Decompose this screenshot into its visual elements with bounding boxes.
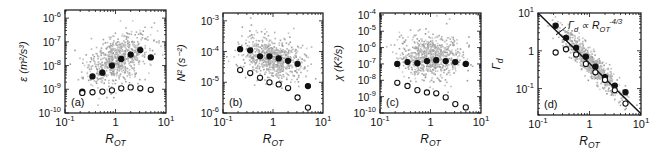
open-marker [463,105,468,110]
open-marker [623,101,628,106]
x-axis-label: ROT [420,132,441,148]
filled-marker [267,54,272,59]
series-open [395,80,469,110]
filled-marker [295,61,300,66]
open-marker [563,47,568,52]
open-marker [119,86,124,91]
filled-marker [305,84,310,89]
y-axis-label: Γd [490,58,505,69]
x-tick-label: 10-1 [528,116,548,130]
open-marker [148,87,153,92]
x-tick-label: 101 [158,114,175,128]
filled-marker [257,54,262,59]
y-tick-label: 10-3 [201,13,219,27]
y-axis-label: ε (m²/s³) [17,41,29,82]
panel-c: 10-1110110-1010-910-810-710-610-510-4ROT… [332,7,490,148]
open-marker [267,80,272,85]
x-tick-label: 1 [427,116,433,128]
x-tick-label: 10-1 [55,114,75,128]
panel-label: (d) [544,98,557,110]
filled-marker [238,47,243,52]
filled-marker [100,70,105,75]
filled-marker [395,61,400,66]
x-tick-label: 1 [112,116,118,128]
x-tick-label: 10-1 [213,114,233,128]
open-marker [443,95,448,100]
y-tick-label: 10-6 [358,40,376,54]
panel-label: (c) [386,96,399,108]
filled-marker [463,61,468,66]
filled-marker [119,56,124,61]
panel-b: 10-1110110-610-510-410-3ROTN² (s⁻²)(b) [175,13,332,148]
open-marker [257,75,262,80]
open-marker [453,102,458,107]
open-marker [583,61,588,66]
y-tick-label: 10-1 [516,81,534,95]
filled-marker [434,58,439,63]
figure: 10-1110110-1010-910-810-710-6ROTε (m²/s³… [0,0,663,153]
open-marker [553,50,558,55]
open-marker [424,90,429,95]
open-marker [276,82,281,87]
open-marker [305,105,310,110]
filled-marker [623,90,628,95]
open-marker [128,85,133,90]
fit-annotation: Γd ∝ ROT-4/3 [568,17,623,34]
filled-marker [553,23,558,28]
panel-d: 10-1110110-11101ROTΓd(d)Γd ∝ ROT-4/3 [490,4,657,150]
filled-marker [593,64,598,69]
y-tick-label: 10-5 [358,23,376,37]
x-tick-label: 101 [473,114,490,128]
filled-marker [109,63,114,68]
filled-marker [443,58,448,63]
x-tick-label: 1 [586,118,592,130]
y-tick-label: 10-4 [201,44,219,58]
x-tick-label: 101 [315,114,332,128]
open-marker [248,70,253,75]
open-marker [238,67,243,72]
panel-a: 10-1110110-1010-910-810-710-6ROTε (m²/s³… [17,10,175,148]
y-tick-label: 10-8 [43,58,61,72]
y-tick-label: 101 [518,5,534,19]
open-marker [395,80,400,85]
x-axis-label: ROT [105,132,126,148]
open-marker [574,52,579,57]
open-marker [109,88,114,93]
x-tick-label: 1 [270,116,276,128]
filled-marker [405,59,410,64]
filled-marker [148,55,153,60]
y-axis-label: χ (K²/s) [332,45,344,82]
y-tick-label: 10-5 [201,74,219,88]
y-tick-label: 10-8 [358,72,376,86]
open-marker [90,90,95,95]
series-open [238,67,311,110]
y-tick-label: 10-9 [43,81,61,95]
y-tick-label: 10-6 [43,10,61,24]
filled-marker [574,45,579,50]
x-axis-label: ROT [263,132,284,148]
panel-label: (b) [229,96,242,108]
open-marker [100,89,105,94]
y-tick-label: 10-4 [358,7,376,21]
x-tick-label: 101 [633,116,650,130]
filled-marker [128,52,133,57]
open-marker [295,95,300,100]
filled-marker [453,59,458,64]
open-marker [602,77,607,82]
open-marker [434,91,439,96]
filled-marker [285,58,290,63]
open-marker [612,88,617,93]
y-tick-label: 10-9 [358,89,376,103]
x-axis-label: ROT [579,134,600,150]
filled-marker [90,74,95,79]
open-marker [415,88,420,93]
filled-marker [248,48,253,53]
open-marker [285,85,290,90]
panel-label: (a) [71,96,84,108]
open-marker [593,70,598,75]
filled-marker [563,35,568,40]
filled-marker [583,54,588,59]
filled-marker [424,58,429,63]
filled-marker [276,56,281,61]
y-tick-label: 1 [528,45,534,57]
